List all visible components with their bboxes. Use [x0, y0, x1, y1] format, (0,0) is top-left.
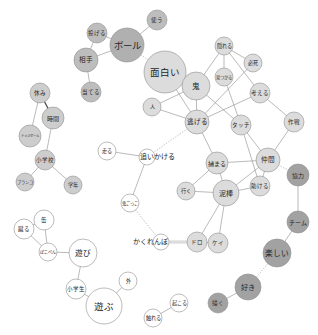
- node-label: 隠れる: [217, 42, 232, 50]
- node-label: 缶: [41, 216, 47, 224]
- network-node: タッチ: [231, 115, 251, 135]
- node-label: ドッジボール: [21, 133, 40, 138]
- network-node: かくれんぼ: [133, 234, 169, 250]
- node-label: ブランコ: [17, 179, 33, 186]
- network-node: 好き: [235, 274, 261, 300]
- node-label: 助ける: [251, 182, 269, 190]
- node-label: 外: [126, 277, 131, 285]
- network-node: 相手: [74, 48, 98, 72]
- node-layer: 使う投げるボール相手当てる面白い鬼人逃げる隠れる見つかる必死考えるタッチ作戦捕ま…: [14, 10, 309, 327]
- node-label: 必死: [248, 59, 258, 67]
- node-label: ぽこぺん: [40, 249, 56, 255]
- network-node: 使う: [147, 10, 167, 30]
- node-label: 遊ぶ: [94, 301, 114, 312]
- node-label: 考える: [251, 90, 269, 97]
- network-node: 楽しい: [263, 239, 291, 267]
- network-node: 遊び: [69, 239, 97, 267]
- node-label: 行く: [181, 187, 191, 195]
- node-label: 仲間: [261, 155, 275, 164]
- node-label: 泥棒: [219, 189, 233, 198]
- network-node: 見つかる: [215, 68, 233, 86]
- node-label: 逃げる: [187, 117, 208, 126]
- network-node: 学年: [64, 176, 82, 194]
- network-node: 協力: [287, 164, 309, 186]
- node-label: 時間: [47, 115, 59, 123]
- node-label: ドロ: [191, 239, 203, 245]
- network-node: 投げる: [87, 23, 107, 43]
- node-label: 触れる: [146, 314, 161, 322]
- node-label: 鬼ごっこ: [122, 200, 138, 207]
- network-node: ボール: [110, 28, 144, 62]
- node-label: 捕まる: [208, 160, 226, 168]
- node-label: 見つかる: [216, 74, 232, 81]
- node-label: ボール: [114, 40, 141, 51]
- node-label: 描く: [212, 299, 224, 307]
- network-node: 遊ぶ: [86, 288, 122, 324]
- network-node: 小学校: [35, 150, 55, 170]
- network-node: 触れる: [144, 309, 162, 327]
- network-node: ケイ: [208, 233, 228, 253]
- network-node: 鬼ごっこ: [121, 194, 139, 212]
- node-label: 蹴る: [18, 225, 30, 233]
- node-label: 面白い: [150, 67, 180, 78]
- network-node: 当てる: [81, 82, 101, 102]
- network-node: 助ける: [250, 176, 270, 196]
- node-label: 使う: [151, 16, 163, 24]
- node-label: 走る: [102, 148, 112, 155]
- node-label: 人: [150, 104, 155, 110]
- node-label: 楽しい: [265, 248, 289, 258]
- network-node: 捕まる: [206, 152, 228, 174]
- network-node: 休み: [30, 83, 50, 103]
- node-label: チーム: [289, 219, 307, 226]
- network-node: ドロ: [187, 232, 207, 252]
- node-label: 鬼: [192, 81, 200, 91]
- node-label: 追いかける: [140, 152, 175, 161]
- node-label: 相手: [79, 55, 93, 64]
- network-node: 作戦: [284, 112, 304, 132]
- network-node: 時間: [42, 107, 64, 129]
- network-node: 走る: [98, 142, 116, 160]
- network-node: 小学生: [66, 279, 86, 299]
- node-label: 学年: [68, 181, 78, 189]
- node-label: 当てる: [82, 88, 100, 96]
- network-node: 缶: [34, 210, 54, 230]
- network-node: 外: [119, 272, 137, 290]
- network-node: 逃げる: [185, 110, 209, 134]
- node-label: 小学校: [36, 156, 54, 164]
- node-label: 投げる: [88, 29, 106, 37]
- co-occurrence-network: 使う投げるボール相手当てる面白い鬼人逃げる隠れる見つかる必死考えるタッチ作戦捕ま…: [0, 0, 318, 335]
- node-label: ケイ: [212, 240, 224, 246]
- network-node: 行く: [177, 182, 195, 200]
- network-node: ブランコ: [16, 173, 34, 191]
- network-node: 鬼: [182, 72, 210, 100]
- node-label: 小学生: [67, 285, 85, 293]
- network-node: 仲間: [256, 148, 280, 172]
- network-node: チーム: [287, 211, 309, 233]
- network-node: ドッジボール: [19, 125, 41, 147]
- network-node: 考える: [250, 83, 270, 103]
- network-node: 泥棒: [213, 180, 239, 206]
- network-node: 人: [143, 98, 161, 116]
- network-node: 蹴る: [14, 219, 34, 239]
- node-label: タッチ: [232, 121, 250, 128]
- node-label: 起こる: [172, 300, 187, 307]
- network-node: 描く: [208, 293, 228, 313]
- node-label: 休み: [34, 89, 46, 97]
- node-label: 協力: [292, 172, 304, 180]
- network-node: 必死: [244, 54, 262, 72]
- network-node: 面白い: [144, 51, 186, 93]
- network-node: 隠れる: [215, 37, 233, 55]
- node-label: 遊び: [75, 248, 91, 258]
- network-node: 追いかける: [139, 149, 175, 165]
- node-label: 作戦: [288, 118, 300, 126]
- node-label: 好き: [241, 283, 255, 292]
- node-label: かくれんぼ: [133, 238, 168, 246]
- network-node: 起こる: [170, 294, 188, 312]
- network-node: ぽこぺん: [39, 243, 57, 261]
